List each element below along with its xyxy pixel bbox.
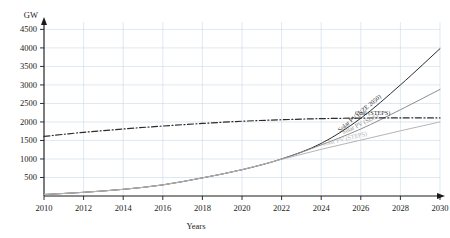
series-label-2: Coal (STEPS) bbox=[355, 109, 390, 117]
y-tick-label: 3500 bbox=[20, 61, 37, 71]
line-chart: 50010001500200025003000350040004500 2010… bbox=[0, 0, 450, 238]
y-axis-ticks: 50010001500200025003000350040004500 bbox=[20, 24, 44, 182]
x-tick-label: 2026 bbox=[352, 203, 369, 213]
y-tick-label: 3000 bbox=[20, 80, 37, 90]
y-tick-label: 500 bbox=[24, 172, 37, 182]
chart-container: 50010001500200025003000350040004500 2010… bbox=[0, 0, 450, 238]
y-tick-label: 4500 bbox=[20, 24, 37, 34]
y-tick-label: 1000 bbox=[20, 154, 37, 164]
x-tick-label: 2024 bbox=[313, 203, 331, 213]
y-tick-label: 2000 bbox=[20, 117, 37, 127]
y-tick-label: 2500 bbox=[20, 98, 37, 108]
x-tick-label: 2010 bbox=[36, 203, 53, 213]
x-tick-label: 2018 bbox=[194, 203, 211, 213]
x-tick-label: 2020 bbox=[234, 203, 251, 213]
x-axis-title: Years bbox=[187, 221, 206, 231]
y-tick-label: 1500 bbox=[20, 135, 37, 145]
y-axis-title: GW bbox=[24, 10, 38, 20]
x-tick-label: 2016 bbox=[154, 203, 171, 213]
x-tick-label: 2030 bbox=[432, 203, 449, 213]
x-tick-label: 2022 bbox=[273, 203, 290, 213]
x-tick-label: 2012 bbox=[75, 203, 92, 213]
y-tick-label: 4000 bbox=[20, 43, 37, 53]
x-tick-label: 2028 bbox=[392, 203, 409, 213]
x-tick-label: 2014 bbox=[115, 203, 133, 213]
